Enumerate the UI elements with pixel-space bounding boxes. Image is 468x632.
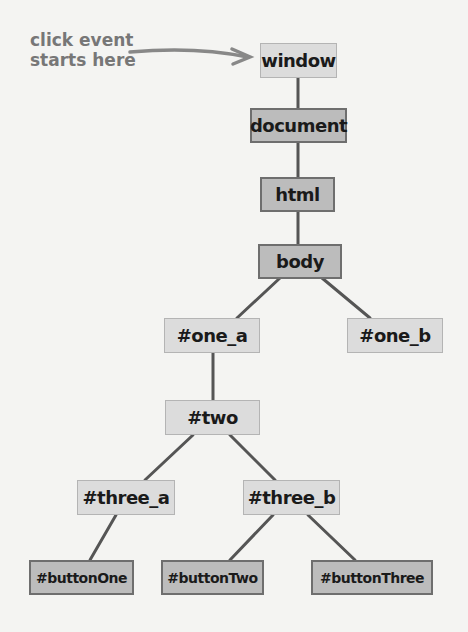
node-one-b: #one_b bbox=[347, 318, 443, 353]
annotation-arrow bbox=[130, 49, 250, 64]
node-html: html bbox=[260, 177, 335, 212]
node-body: body bbox=[258, 244, 342, 279]
annotation-line-1: click event bbox=[30, 30, 136, 50]
annotation-line-2: starts here bbox=[30, 50, 136, 70]
tree-edges bbox=[0, 0, 468, 632]
node-window: window bbox=[260, 43, 337, 78]
node-three-a: #three_a bbox=[77, 480, 175, 515]
node-document: document bbox=[250, 108, 347, 143]
node-button-one: #buttonOne bbox=[29, 560, 134, 595]
node-button-two: #buttonTwo bbox=[161, 560, 264, 595]
node-two: #two bbox=[165, 400, 260, 435]
node-one-a: #one_a bbox=[164, 318, 260, 353]
node-button-three: #buttonThree bbox=[311, 560, 433, 595]
node-three-b: #three_b bbox=[243, 480, 340, 515]
annotation-label: click event starts here bbox=[30, 30, 136, 70]
